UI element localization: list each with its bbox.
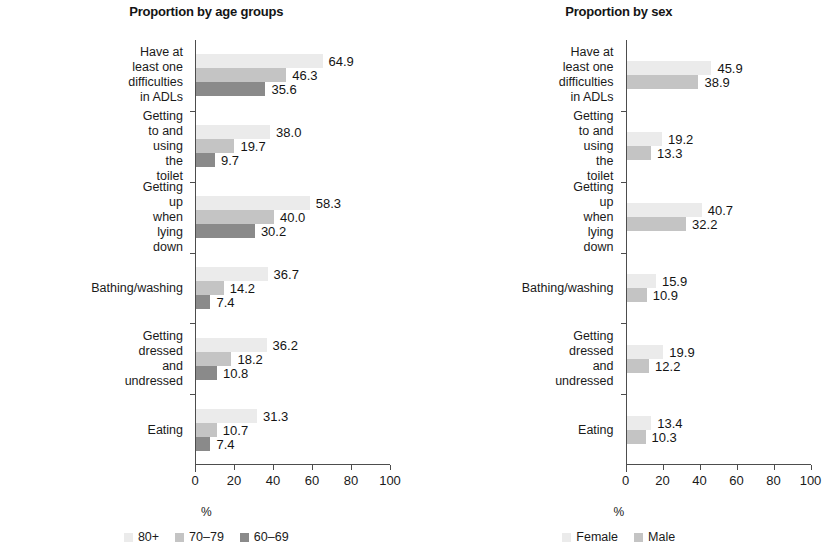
bar bbox=[196, 54, 323, 68]
bar-value-label: 32.2 bbox=[692, 217, 717, 232]
bar-value-label: 19.2 bbox=[668, 132, 693, 147]
bar-value-label: 10.7 bbox=[223, 422, 248, 437]
x-axis-tick bbox=[811, 465, 812, 470]
bar bbox=[196, 267, 268, 281]
x-axis-tick bbox=[737, 465, 738, 470]
bar bbox=[627, 274, 656, 288]
bar bbox=[627, 132, 663, 146]
plot-area-age-groups: 020406080100Have at least one difficulti… bbox=[195, 40, 390, 465]
bar bbox=[196, 366, 217, 380]
x-axis-tick-label: 40 bbox=[692, 473, 706, 488]
bar bbox=[196, 281, 224, 295]
bar-value-label: 36.2 bbox=[273, 337, 298, 352]
bar-value-label: 14.2 bbox=[230, 280, 255, 295]
x-axis-tick bbox=[626, 465, 627, 472]
x-axis-line bbox=[195, 464, 390, 465]
legend-sex: FemaleMale bbox=[413, 530, 825, 544]
category-label: Have at least one difficulties in ADLs bbox=[128, 45, 183, 105]
legend-item[interactable]: 60–69 bbox=[240, 530, 289, 544]
category-label: Bathing/washing bbox=[91, 280, 183, 295]
x-axis-tick-label: 20 bbox=[655, 473, 669, 488]
category-label: Bathing/washing bbox=[522, 280, 614, 295]
y-axis-group-tick bbox=[621, 111, 626, 112]
x-axis-tick bbox=[273, 465, 274, 470]
bar-value-label: 10.9 bbox=[653, 287, 678, 302]
bar-value-label: 13.3 bbox=[657, 146, 682, 161]
category-label: Getting up when lying down bbox=[143, 180, 183, 255]
legend-swatch-icon bbox=[562, 533, 571, 542]
x-axis-tick-label: 100 bbox=[800, 473, 822, 488]
legend-label: 60–69 bbox=[254, 530, 289, 544]
legend-age-groups: 80+70–7960–69 bbox=[0, 530, 413, 544]
y-axis-line bbox=[195, 40, 196, 465]
bar-value-label: 12.2 bbox=[655, 358, 680, 373]
category-label: Getting to and using the toilet bbox=[573, 109, 613, 184]
panel-sex: Proportion by sex 020406080100Have at le… bbox=[413, 0, 825, 550]
bar-value-label: 19.9 bbox=[669, 344, 694, 359]
bar-value-label: 38.0 bbox=[276, 125, 301, 140]
legend-label: Female bbox=[576, 530, 618, 544]
y-axis-group-tick bbox=[621, 394, 626, 395]
bar-value-label: 64.9 bbox=[329, 54, 354, 69]
y-axis-group-tick bbox=[621, 253, 626, 254]
legend-label: Male bbox=[648, 530, 675, 544]
x-axis-tick-label: 20 bbox=[227, 473, 241, 488]
legend-swatch-icon bbox=[124, 533, 133, 542]
bar-value-label: 35.6 bbox=[271, 82, 296, 97]
x-axis-tick bbox=[195, 465, 196, 472]
bar-value-label: 31.3 bbox=[263, 408, 288, 423]
bar-value-label: 10.3 bbox=[652, 429, 677, 444]
bar bbox=[627, 430, 646, 444]
bar bbox=[196, 338, 267, 352]
category-label: Getting to and using the toilet bbox=[143, 109, 183, 184]
bar-value-label: 18.2 bbox=[237, 351, 262, 366]
bar bbox=[196, 196, 310, 210]
bar-value-label: 7.4 bbox=[216, 436, 234, 451]
bar-value-label: 7.4 bbox=[216, 294, 234, 309]
y-axis-group-tick bbox=[190, 394, 195, 395]
legend-item[interactable]: Female bbox=[562, 530, 618, 544]
y-axis-group-tick bbox=[621, 323, 626, 324]
bar bbox=[627, 359, 650, 373]
bar bbox=[627, 416, 652, 430]
y-axis-group-tick bbox=[621, 182, 626, 183]
x-axis-tick bbox=[774, 465, 775, 470]
bar bbox=[196, 224, 255, 238]
y-axis-group-tick bbox=[190, 253, 195, 254]
x-axis-tick bbox=[663, 465, 664, 470]
legend-item[interactable]: 80+ bbox=[124, 530, 159, 544]
bar-value-label: 40.7 bbox=[708, 203, 733, 218]
bar-value-label: 38.9 bbox=[704, 75, 729, 90]
legend-item[interactable]: Male bbox=[634, 530, 675, 544]
x-axis-line bbox=[626, 464, 811, 465]
legend-item[interactable]: 70–79 bbox=[175, 530, 224, 544]
legend-swatch-icon bbox=[175, 533, 184, 542]
y-axis-group-tick bbox=[190, 111, 195, 112]
legend-label: 80+ bbox=[138, 530, 159, 544]
x-axis-tick bbox=[351, 465, 352, 470]
bar bbox=[196, 423, 217, 437]
x-axis-tick bbox=[390, 465, 391, 470]
legend-label: 70–79 bbox=[189, 530, 224, 544]
category-label: Eating bbox=[148, 422, 183, 437]
bar bbox=[196, 139, 234, 153]
x-axis-tick-label: 60 bbox=[305, 473, 319, 488]
bar bbox=[196, 153, 215, 167]
x-axis-tick-label: 80 bbox=[766, 473, 780, 488]
bar-value-label: 30.2 bbox=[261, 224, 286, 239]
bar-value-label: 10.8 bbox=[223, 365, 248, 380]
x-axis-tick-label: 100 bbox=[379, 473, 401, 488]
chart-title-age-groups: Proportion by age groups bbox=[0, 4, 413, 19]
bar bbox=[627, 75, 699, 89]
x-axis-caption-age-groups: % bbox=[0, 505, 413, 519]
bar bbox=[196, 82, 265, 96]
x-axis-tick bbox=[700, 465, 701, 470]
x-axis-tick-label: 0 bbox=[622, 473, 629, 488]
x-axis-tick bbox=[312, 465, 313, 470]
x-axis-tick-label: 60 bbox=[729, 473, 743, 488]
bar bbox=[627, 61, 712, 75]
figure-root: Proportion by age groups 020406080100Hav… bbox=[0, 0, 825, 550]
bar-value-label: 46.3 bbox=[292, 68, 317, 83]
x-axis-caption-sex: % bbox=[413, 505, 825, 519]
category-label: Getting dressed and undressed bbox=[555, 329, 613, 389]
